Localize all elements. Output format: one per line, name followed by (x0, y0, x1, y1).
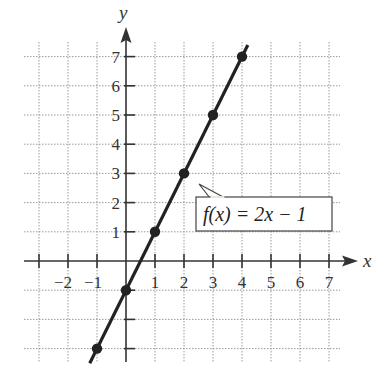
y-tick-label: 1 (112, 223, 121, 242)
x-tick-label: −2 (54, 273, 72, 292)
x-tick-label: −1 (84, 273, 102, 292)
y-tick-label: 2 (112, 194, 121, 213)
data-point (208, 110, 218, 120)
x-tick-label: 7 (325, 273, 334, 292)
data-point (150, 227, 160, 237)
function-graph: x y −2−112345671234567 f(x) = 2x − 1 (0, 0, 384, 383)
y-tick-label: 3 (112, 164, 121, 183)
axes: x y (24, 2, 372, 362)
callout-pointer (199, 184, 225, 198)
data-point (237, 51, 247, 61)
function-label: f(x) = 2x − 1 (203, 203, 307, 226)
function-callout: f(x) = 2x − 1 (196, 184, 332, 231)
y-axis-label: y (117, 2, 128, 23)
data-point (179, 168, 189, 178)
x-tick-label: 6 (296, 273, 305, 292)
y-tick-label: 4 (112, 135, 121, 154)
y-tick-label: 6 (112, 77, 121, 96)
x-axis-label: x (362, 250, 372, 271)
data-point (121, 285, 131, 295)
x-tick-label: 3 (209, 273, 218, 292)
data-point (92, 343, 102, 353)
y-tick-label: 7 (112, 48, 121, 67)
y-tick-label: 5 (112, 106, 121, 125)
x-tick-label: 4 (238, 273, 247, 292)
x-tick-label: 2 (180, 273, 189, 292)
x-tick-label: 1 (151, 273, 160, 292)
x-tick-label: 5 (267, 273, 276, 292)
